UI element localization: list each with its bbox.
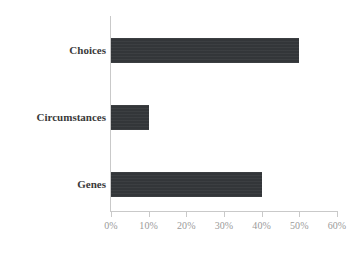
- x-axis-tick: [262, 212, 263, 217]
- x-axis-tick: [111, 212, 112, 217]
- bar-choices: [111, 38, 299, 63]
- x-axis-tick: [224, 212, 225, 217]
- x-axis-tick: [186, 212, 187, 217]
- bar-genes: [111, 172, 262, 197]
- bar-chart: 0%10%20%30%40%50%60% Choices Circumstanc…: [0, 0, 362, 256]
- x-axis-tick-label: 60%: [315, 219, 359, 232]
- x-axis-tick: [299, 212, 300, 217]
- x-axis-tick: [149, 212, 150, 217]
- category-label-genes: Genes: [0, 178, 106, 191]
- bar-circumstances: [111, 105, 149, 130]
- category-label-choices: Choices: [0, 44, 106, 57]
- category-label-circumstances: Circumstances: [0, 111, 106, 124]
- x-axis-tick: [337, 212, 338, 217]
